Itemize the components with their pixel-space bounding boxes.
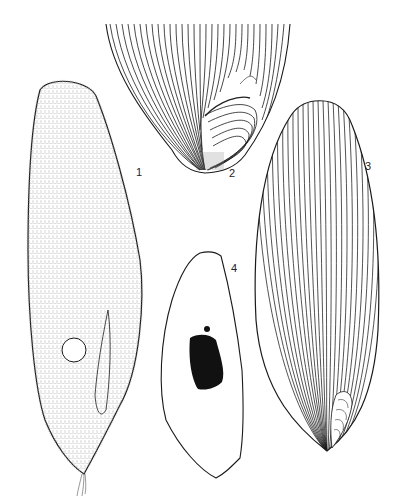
micronucleus xyxy=(204,326,210,332)
illustration-plate: 2 1 xyxy=(0,0,398,496)
figure-1: 1 xyxy=(28,81,142,496)
panel-label-4: 4 xyxy=(231,262,237,274)
panel-label-1: 1 xyxy=(136,166,142,178)
kinety-lines-fig3 xyxy=(257,100,379,452)
contractile-vacuole xyxy=(62,338,86,362)
oral-region-fig3 xyxy=(331,392,352,448)
cell-body-fig1 xyxy=(28,81,142,474)
figure-4: 4 xyxy=(161,252,243,478)
kinety-lines-fig2 xyxy=(110,24,284,170)
figure-2: 2 xyxy=(106,24,290,179)
panel-label-2: 2 xyxy=(229,167,235,179)
outline-fig2 xyxy=(106,24,290,173)
figure-3: 3 xyxy=(255,100,379,452)
panel-label-3: 3 xyxy=(365,160,371,172)
caudal-cilia xyxy=(77,474,86,496)
